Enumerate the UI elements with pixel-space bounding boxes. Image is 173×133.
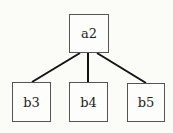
node-label: b3 [23,95,40,110]
edge-a2-b3 [32,53,80,82]
edge-a2-b5 [97,53,146,83]
node-b5: b5 [127,83,165,122]
node-b4: b4 [69,82,108,122]
node-label: a2 [81,26,97,41]
node-label: b4 [80,95,97,110]
node-label: b5 [138,95,155,110]
node-b3: b3 [12,82,51,122]
node-a2: a2 [69,14,109,53]
